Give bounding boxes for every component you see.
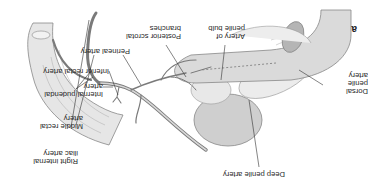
- label-perineal-artery: Perineal artery: [81, 47, 130, 55]
- anatomy-figure: a Artery of penile bulb Posterior scrota…: [0, 0, 371, 195]
- panel-label: a: [351, 24, 357, 35]
- leader-perineal: [123, 55, 141, 85]
- label-internal-pudendal-artery: Internal pudendal artery: [44, 82, 103, 98]
- label-right-internal-iliac-artery: Right internal iliac artery: [33, 149, 78, 165]
- label-deep-penile-artery: Deep penile artery: [223, 170, 285, 178]
- label-dorsal-penile-artery: Dorsal penile artery: [346, 70, 368, 95]
- penile-shaft: [175, 10, 351, 83]
- label-inferior-rectal-artery: Inferior rectal artery: [43, 67, 109, 75]
- label-artery-of-penile-bulb: Artery of penile bulb: [208, 24, 245, 40]
- label-middle-rectal-artery: Middle rectal artery: [40, 114, 83, 130]
- label-posterior-scrotal-branches: Posterior scrotal branches: [126, 24, 181, 40]
